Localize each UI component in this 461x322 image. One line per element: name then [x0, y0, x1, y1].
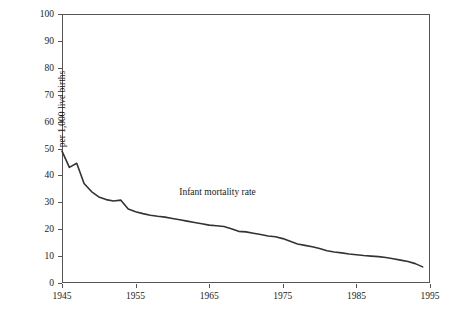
y-axis-tick-label: 70	[14, 90, 54, 100]
y-axis-tick-mark	[58, 202, 62, 203]
y-axis-tick-label: 0	[14, 278, 54, 288]
x-axis-tick-mark	[62, 284, 63, 288]
series-annotation-label: Infant mortality rate	[179, 187, 256, 197]
x-axis-tick-mark	[430, 284, 431, 288]
y-axis-tick-label: 90	[14, 36, 54, 46]
y-axis-tick-mark	[58, 95, 62, 96]
x-axis-tick-label: 1995	[408, 291, 452, 301]
y-axis-tick-label: 10	[14, 251, 54, 261]
x-axis-tick-mark	[283, 284, 284, 288]
x-axis-tick-label: 1985	[334, 291, 378, 301]
y-axis-tick-mark	[58, 122, 62, 123]
x-axis-tick-mark	[356, 284, 357, 288]
x-axis-tick-label: 1965	[187, 291, 231, 301]
y-axis-tick-mark	[58, 256, 62, 257]
y-axis-tick-mark	[58, 149, 62, 150]
x-axis-tick-label: 1945	[40, 291, 84, 301]
y-axis-tick-label: 50	[14, 144, 54, 154]
infant-mortality-chart: per 1,000 live births 010203040506070809…	[0, 0, 461, 322]
y-axis-tick-label: 100	[14, 9, 54, 19]
x-axis-tick-label: 1975	[261, 291, 305, 301]
y-axis-tick-label: 60	[14, 117, 54, 127]
plot-area	[62, 14, 430, 283]
y-axis-tick-mark	[58, 14, 62, 15]
y-axis-tick-mark	[58, 229, 62, 230]
y-axis-tick-label: 30	[14, 197, 54, 207]
x-axis-tick-mark	[136, 284, 137, 288]
y-axis-tick-mark	[58, 175, 62, 176]
x-axis-tick-mark	[209, 284, 210, 288]
y-axis-tick-label: 80	[14, 63, 54, 73]
x-axis-tick-label: 1955	[114, 291, 158, 301]
y-axis-tick-label: 20	[14, 224, 54, 234]
y-axis-tick-label: 40	[14, 170, 54, 180]
y-axis-tick-mark	[58, 68, 62, 69]
y-axis-label: per 1,000 live births	[57, 39, 67, 179]
y-axis-tick-mark	[58, 41, 62, 42]
